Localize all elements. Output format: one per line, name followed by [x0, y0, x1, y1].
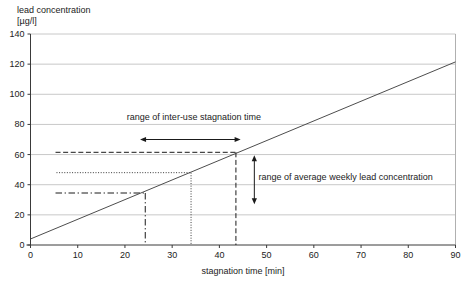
chart-background	[0, 0, 470, 298]
y-tick-label-140: 140	[9, 29, 24, 39]
lead-stagnation-chart-figure: 0204060801001201400102030405060708090lea…	[0, 0, 470, 298]
x-tick-label-10: 10	[73, 250, 83, 260]
y-tick-label-20: 20	[14, 210, 24, 220]
y-tick-label-120: 120	[9, 59, 24, 69]
annotation-inter_use: range of inter-use stagnation time	[127, 112, 261, 122]
x-tick-label-80: 80	[403, 250, 413, 260]
x-axis-title: stagnation time [min]	[201, 266, 284, 276]
x-tick-label-0: 0	[28, 250, 33, 260]
x-tick-label-30: 30	[167, 250, 177, 260]
y-tick-label-60: 60	[14, 150, 24, 160]
y-tick-label-0: 0	[19, 240, 24, 250]
y-axis-title-line2: [µg/l]	[17, 16, 37, 26]
x-tick-label-50: 50	[262, 250, 272, 260]
x-tick-label-70: 70	[356, 250, 366, 260]
y-tick-label-80: 80	[14, 119, 24, 129]
x-tick-label-40: 40	[214, 250, 224, 260]
y-axis-title-line1: lead concentration	[17, 5, 91, 15]
x-tick-label-90: 90	[450, 250, 460, 260]
lead-stagnation-chart: 0204060801001201400102030405060708090lea…	[0, 0, 470, 298]
x-tick-label-60: 60	[309, 250, 319, 260]
y-tick-label-40: 40	[14, 180, 24, 190]
x-tick-label-20: 20	[120, 250, 130, 260]
y-tick-label-100: 100	[9, 89, 24, 99]
annotation-weekly_lead: range of average weekly lead concentrati…	[259, 172, 433, 182]
